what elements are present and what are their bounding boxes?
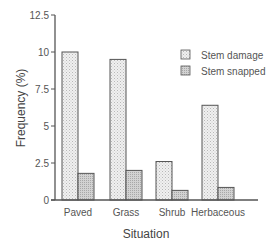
bar-stem-snapped-grass	[126, 170, 142, 200]
x-category-label: Shrub	[159, 207, 186, 218]
bar-stem-snapped-paved	[78, 173, 94, 200]
bar-stem-snapped-shrub	[172, 190, 188, 200]
legend: Stem damageStem snapped	[181, 50, 266, 77]
y-axis-title: Frequency (%)	[14, 69, 28, 148]
y-tick-label: 12.5	[30, 10, 50, 21]
x-axis-title: Situation	[123, 227, 170, 241]
x-axis: PavedGrassShrubHerbaceous	[51, 200, 258, 218]
legend-swatch-stem-snapped	[181, 66, 190, 75]
y-tick-label: 0	[43, 195, 49, 206]
x-category-label: Paved	[64, 207, 92, 218]
y-axis: 02.557.51012.5	[30, 10, 55, 206]
bar-stem-damage-paved	[62, 52, 78, 200]
y-tick-label: 10	[38, 47, 50, 58]
legend-label: Stem snapped	[201, 66, 266, 77]
y-tick-label: 2.5	[35, 158, 49, 169]
bar-stem-damage-grass	[110, 59, 126, 200]
bar-stem-damage-herbaceous	[202, 105, 218, 200]
bar-stem-damage-shrub	[156, 162, 172, 200]
y-tick-label: 5	[43, 121, 49, 132]
y-tick-label: 7.5	[35, 84, 49, 95]
legend-label: Stem damage	[201, 50, 264, 61]
x-category-label: Grass	[113, 207, 140, 218]
bar-stem-snapped-herbaceous	[218, 187, 234, 200]
x-category-label: Herbaceous	[191, 207, 245, 218]
bar-chart: 02.557.51012.5 PavedGrassShrubHerbaceous…	[0, 0, 274, 250]
legend-swatch-stem-damage	[181, 50, 190, 59]
